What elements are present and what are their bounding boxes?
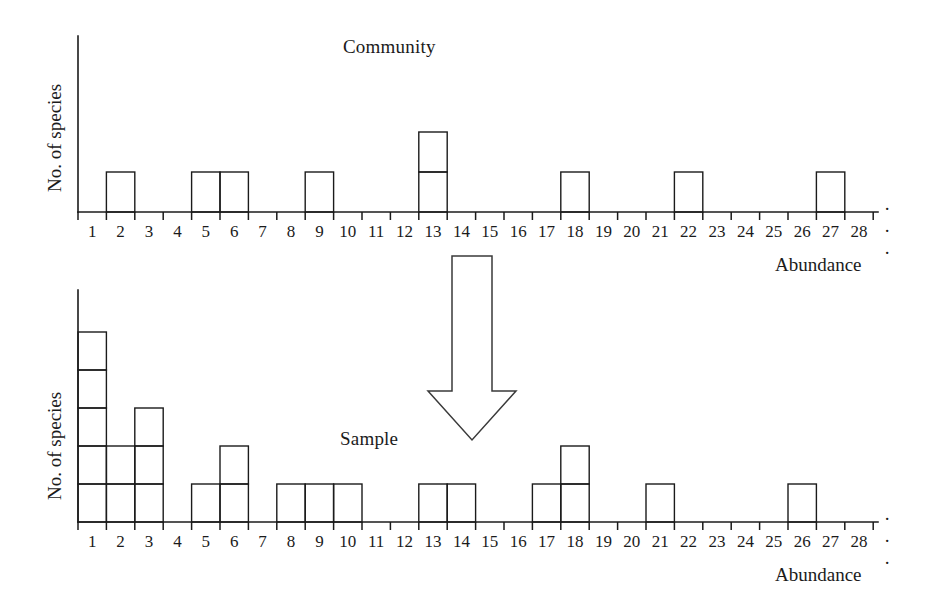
sample-bar-cell [78,370,106,408]
sample-bar-cell [78,446,106,484]
sample-x-ticks [78,522,873,530]
sample-bar-cell [447,484,475,522]
sample-bar-cell [192,484,220,522]
sample-bar-cell [106,484,134,522]
sample-bar-cell [334,484,362,522]
sample-bar-cell [419,484,447,522]
sample-bar-cell [78,408,106,446]
sample-bar-cell [788,484,816,522]
sample-axes [78,290,878,522]
sample-bar-cell [277,484,305,522]
sample-bar-cell [135,408,163,446]
sample-bar-cell [220,484,248,522]
sample-x-axis-label: Abundance [775,564,862,586]
sample-bar-cell [646,484,674,522]
sample-bar-cell [561,484,589,522]
sample-bar-cell [78,332,106,370]
sample-bar-cell [532,484,560,522]
sample-bar-cell [561,446,589,484]
sample-tick-label: 28 [835,532,883,552]
figure-root: No. of species Community 123456789101112… [0,0,941,615]
sample-bar-cell [220,446,248,484]
sample-bar-cell [78,484,106,522]
sample-bar-cell [106,446,134,484]
sample-bar-cell [305,484,333,522]
sample-bars [78,332,816,522]
sample-bar-cell [135,484,163,522]
sample-axis-ellipsis: · · · [884,508,893,574]
sample-plot-svg [0,0,941,615]
sample-bar-cell [135,446,163,484]
